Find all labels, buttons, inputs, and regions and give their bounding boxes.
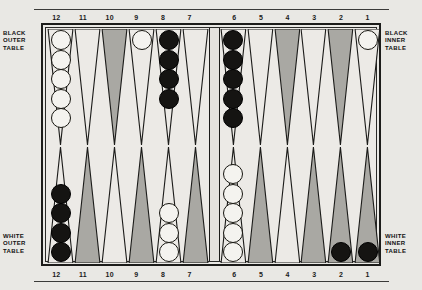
white-checker[interactable]: [51, 69, 71, 89]
point-number: 7: [176, 268, 203, 282]
point-white-outer-table-8[interactable]: [155, 146, 182, 263]
point-triangle: [128, 146, 155, 263]
white-checker[interactable]: [132, 30, 152, 50]
black-checker[interactable]: [223, 108, 243, 128]
point-white-outer-table-9[interactable]: [128, 146, 155, 263]
bottom-left-numbers: 12 11 10 9 8 7: [43, 268, 203, 282]
point-number: 2: [328, 268, 355, 282]
white-checker[interactable]: [51, 89, 71, 109]
white-checker[interactable]: [51, 50, 71, 70]
point-black-inner-table-6[interactable]: [220, 29, 247, 146]
point-number: 11: [70, 268, 97, 282]
point-triangle: [182, 29, 209, 146]
white-checker[interactable]: [51, 108, 71, 128]
quadrant-black-outer-table: [47, 29, 209, 146]
point-triangle: [274, 146, 301, 263]
point-number: 12: [43, 268, 70, 282]
point-white-inner-table-4[interactable]: [274, 146, 301, 263]
label-line: INNER: [385, 240, 422, 247]
point-black-inner-table-3[interactable]: [300, 29, 327, 146]
point-black-inner-table-2[interactable]: [327, 29, 354, 146]
point-triangle: [274, 29, 301, 146]
black-checker[interactable]: [331, 242, 351, 262]
point-black-inner-table-4[interactable]: [274, 29, 301, 146]
label-line: TABLE: [3, 45, 39, 52]
white-checker[interactable]: [159, 242, 179, 262]
black-checker[interactable]: [51, 223, 71, 243]
black-checker[interactable]: [159, 69, 179, 89]
white-checker[interactable]: [159, 223, 179, 243]
point-number: 1: [354, 268, 381, 282]
white-checker[interactable]: [223, 164, 243, 184]
label-line: TABLE: [3, 248, 39, 255]
board-frame: [41, 23, 381, 266]
black-checker[interactable]: [223, 30, 243, 50]
backgammon-board: 12 11 10 9 8 7 6 5 4 3 2 1 12 11 10 9 8 …: [0, 0, 422, 290]
black-checker[interactable]: [223, 50, 243, 70]
black-checker[interactable]: [159, 50, 179, 70]
quadrant-black-inner-table: [220, 29, 381, 146]
point-number: 6: [221, 268, 248, 282]
white-checker[interactable]: [223, 223, 243, 243]
white-checker[interactable]: [223, 242, 243, 262]
black-checker[interactable]: [223, 89, 243, 109]
point-white-inner-table-1[interactable]: [354, 146, 381, 263]
point-white-outer-table-11[interactable]: [74, 146, 101, 263]
point-white-outer-table-7[interactable]: [182, 146, 209, 263]
point-white-outer-table-10[interactable]: [101, 146, 128, 263]
point-number: 4: [274, 268, 301, 282]
black-checker[interactable]: [51, 203, 71, 223]
point-number: 5: [248, 268, 275, 282]
white-checker[interactable]: [51, 30, 71, 50]
white-checker[interactable]: [358, 30, 378, 50]
black-checker[interactable]: [223, 69, 243, 89]
quadrant-white-outer-table: [47, 146, 209, 263]
black-checker[interactable]: [159, 30, 179, 50]
label-line: INNER: [385, 37, 422, 44]
black-checker[interactable]: [159, 89, 179, 109]
point-number: 10: [96, 268, 123, 282]
label-white-outer-table: WHITE OUTER TABLE: [3, 233, 39, 255]
point-black-outer-table-10[interactable]: [101, 29, 128, 146]
label-line: WHITE: [3, 233, 39, 240]
point-number: 3: [301, 268, 328, 282]
bottom-point-numbers: 12 11 10 9 8 7 6 5 4 3 2 1: [43, 268, 383, 282]
point-black-outer-table-11[interactable]: [74, 29, 101, 146]
point-triangle: [300, 146, 327, 263]
top-rule: [34, 9, 389, 10]
label-line: TABLE: [385, 248, 422, 255]
point-triangle: [101, 29, 128, 146]
point-black-outer-table-12[interactable]: [47, 29, 74, 146]
white-checker[interactable]: [223, 184, 243, 204]
black-checker[interactable]: [358, 242, 378, 262]
point-triangle: [247, 146, 274, 263]
point-white-inner-table-3[interactable]: [300, 146, 327, 263]
point-triangle: [300, 29, 327, 146]
bottom-right-numbers: 6 5 4 3 2 1: [221, 268, 381, 282]
point-black-outer-table-7[interactable]: [182, 29, 209, 146]
label-black-inner-table: BLACK INNER TABLE: [385, 30, 422, 52]
label-line: BLACK: [385, 30, 422, 37]
point-white-outer-table-12[interactable]: [47, 146, 74, 263]
point-black-inner-table-5[interactable]: [247, 29, 274, 146]
board-playing-surface: [45, 27, 377, 262]
quadrant-white-inner-table: [220, 146, 381, 263]
point-triangle: [327, 29, 354, 146]
white-checker[interactable]: [159, 203, 179, 223]
point-white-inner-table-2[interactable]: [327, 146, 354, 263]
label-line: WHITE: [385, 233, 422, 240]
point-white-inner-table-6[interactable]: [220, 146, 247, 263]
white-checker[interactable]: [223, 203, 243, 223]
point-white-inner-table-5[interactable]: [247, 146, 274, 263]
label-line: OUTER: [3, 240, 39, 247]
point-black-outer-table-8[interactable]: [155, 29, 182, 146]
point-black-inner-table-1[interactable]: [354, 29, 381, 146]
point-black-outer-table-9[interactable]: [128, 29, 155, 146]
black-checker[interactable]: [51, 242, 71, 262]
point-triangle: [74, 146, 101, 263]
label-black-outer-table: BLACK OUTER TABLE: [3, 30, 39, 52]
point-triangle: [247, 29, 274, 146]
board-bar[interactable]: [209, 28, 220, 261]
black-checker[interactable]: [51, 184, 71, 204]
label-line: TABLE: [385, 45, 422, 52]
